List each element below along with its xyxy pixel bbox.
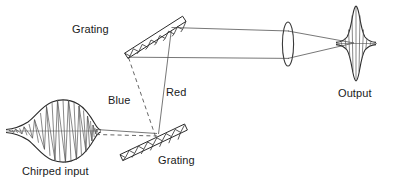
output-pulse: Output <box>336 6 377 99</box>
blue-ray-label: Blue <box>108 94 130 106</box>
input-beam-dashed <box>96 135 157 137</box>
red-ray-label: Red <box>166 86 186 98</box>
output-oscillations <box>341 6 371 80</box>
optical-diagram: Chirped input Grating Blue Red <box>0 0 399 184</box>
red-ray <box>159 25 173 135</box>
output-envelope-right <box>356 6 376 42</box>
lens-ellipse <box>282 22 293 66</box>
blue-ray <box>129 58 156 137</box>
top-grating-label: Grating <box>72 23 109 35</box>
converging-beam <box>288 31 354 58</box>
bottom-grating: Grating <box>120 124 195 166</box>
converging-ray-upper <box>288 31 354 43</box>
chirped-input-pulse: Chirped input <box>6 99 101 177</box>
input-beam <box>96 130 157 134</box>
collimated-ray-lower <box>130 57 290 58</box>
focusing-lens <box>282 22 293 66</box>
bottom-grating-label: Grating <box>158 154 195 166</box>
input-beam-group <box>96 130 157 137</box>
collimated-beam <box>130 28 290 59</box>
figure-canvas: Chirped input Grating Blue Red <box>0 0 399 184</box>
output-envelope-left <box>336 6 356 42</box>
converging-ray-lower <box>288 43 354 58</box>
top-grating-body <box>125 16 186 58</box>
collimated-ray-upper <box>172 28 290 32</box>
output-label: Output <box>338 87 372 99</box>
chirped-input-label: Chirped input <box>22 165 89 177</box>
